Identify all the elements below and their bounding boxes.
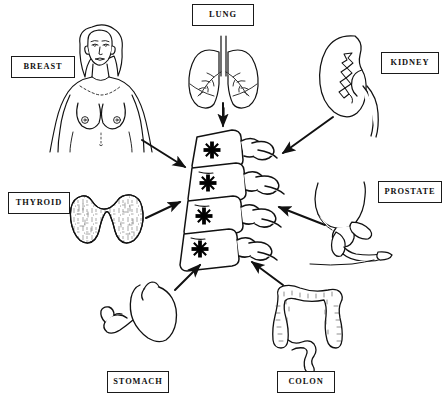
lesion-marker-3 [196,208,213,225]
label-prostate[interactable]: PROSTATE [378,181,442,203]
label-breast[interactable]: BREAST [11,56,75,78]
stomach-organ-illustration [101,282,177,342]
arrow-breast-to-spine [142,140,185,167]
label-colon[interactable]: COLON [277,371,335,393]
arrow-kidney-to-spine [283,117,333,153]
thyroid-organ-illustration [70,195,143,243]
label-thyroid[interactable]: THYROID [8,192,70,214]
label-kidney[interactable]: KIDNEY [381,52,439,74]
lesion-marker-2 [200,175,217,192]
arrow-colon-to-spine [252,262,283,285]
breast-organ-illustration [50,25,152,152]
metastasis-diagram: BREAST LUNG KIDNEY PROSTATE COLON STOMAC… [0,0,446,400]
kidney-organ-illustration [320,36,379,137]
colon-organ-illustration [273,285,343,373]
arrow-thyroid-to-spine [146,202,180,218]
spine-illustration [180,130,284,271]
label-stomach[interactable]: STOMACH [107,371,169,393]
lesion-marker-1 [204,142,221,159]
lesion-marker-4 [192,241,209,258]
label-lung[interactable]: LUNG [192,4,254,26]
